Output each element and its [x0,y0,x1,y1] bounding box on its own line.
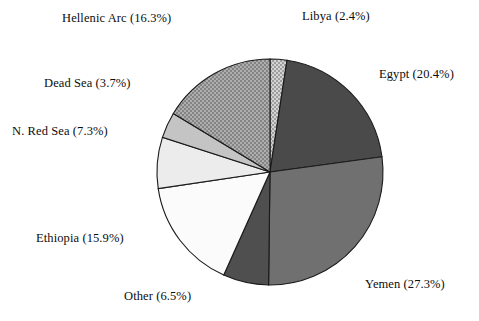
slice-label-libya: Libya (2.4%) [302,10,370,24]
leader-line [333,266,362,287]
leader-line [352,78,376,92]
leader-line [205,27,246,52]
slice-label-hellenic-arc: Hellenic Arc (16.3%) [62,12,171,26]
pie-slice-egypt [270,60,382,172]
slice-label-other: Other (6.5%) [124,290,191,304]
slice-label-egypt: Egypt (20.4%) [379,68,454,82]
slice-label-n-red-sea: N. Red Sea (7.3%) [12,125,108,139]
slice-label-ethiopia: Ethiopia (15.9%) [36,232,124,246]
pie-slices-group [157,59,383,285]
pie-chart-svg [0,0,479,321]
slice-label-dead-sea: Dead Sea (3.7%) [44,77,131,91]
pie-slice-yemen [269,157,383,285]
pie-chart-figure: Hellenic Arc (16.3%) Libya (2.4%) Egypt … [0,0,479,321]
leader-line [277,28,300,50]
leader-line [212,284,240,298]
slice-label-yemen: Yemen (27.3%) [365,278,445,292]
